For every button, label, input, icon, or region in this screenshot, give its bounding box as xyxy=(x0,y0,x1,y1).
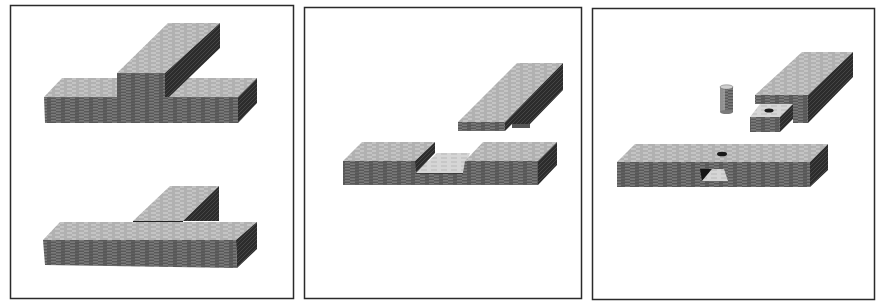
board-front-face xyxy=(458,122,505,131)
panel-2 xyxy=(305,8,582,299)
board-front-face xyxy=(43,240,237,268)
mortise-board xyxy=(617,144,828,187)
panel-1 xyxy=(11,6,294,299)
board-front-face xyxy=(44,97,238,123)
dowel-pin xyxy=(720,85,733,114)
mortise-pin-hole xyxy=(717,152,727,157)
notch-shadow xyxy=(512,124,530,128)
panel-3 xyxy=(593,9,875,300)
crossboard-front-face xyxy=(117,73,165,97)
board-top-face xyxy=(43,222,257,240)
tenon-front-face xyxy=(750,117,780,132)
right-block-front-face xyxy=(463,161,538,185)
tenon-pin-hole xyxy=(765,109,774,113)
joints-illustration xyxy=(0,0,880,305)
